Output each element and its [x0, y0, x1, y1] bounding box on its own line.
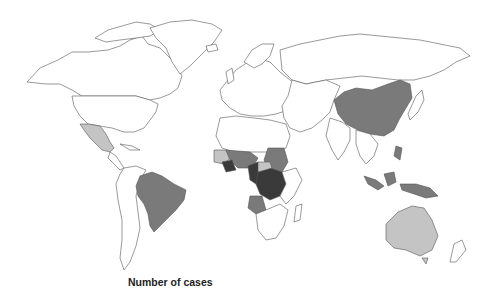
north-africa	[216, 116, 290, 152]
mexico	[80, 124, 114, 152]
indonesia-east-png	[400, 184, 438, 198]
south-america	[116, 166, 186, 270]
philippines	[394, 146, 402, 160]
central-america	[108, 152, 124, 170]
russia	[280, 34, 470, 84]
new-zealand	[450, 240, 466, 262]
cuba	[120, 144, 140, 150]
indonesia-west	[364, 176, 384, 190]
oceania	[364, 172, 466, 264]
tasmania	[422, 258, 428, 264]
world-map	[0, 0, 490, 296]
africa	[214, 116, 302, 240]
asia	[280, 34, 470, 164]
north-america	[27, 20, 222, 170]
borneo	[384, 172, 396, 186]
madagascar	[294, 204, 302, 222]
alaska-canada	[27, 36, 182, 100]
southeast-asia	[356, 130, 378, 164]
australia	[386, 206, 438, 256]
arctic-islands	[95, 22, 160, 42]
legend-title: Number of cases	[128, 276, 213, 288]
brazil	[136, 172, 186, 232]
